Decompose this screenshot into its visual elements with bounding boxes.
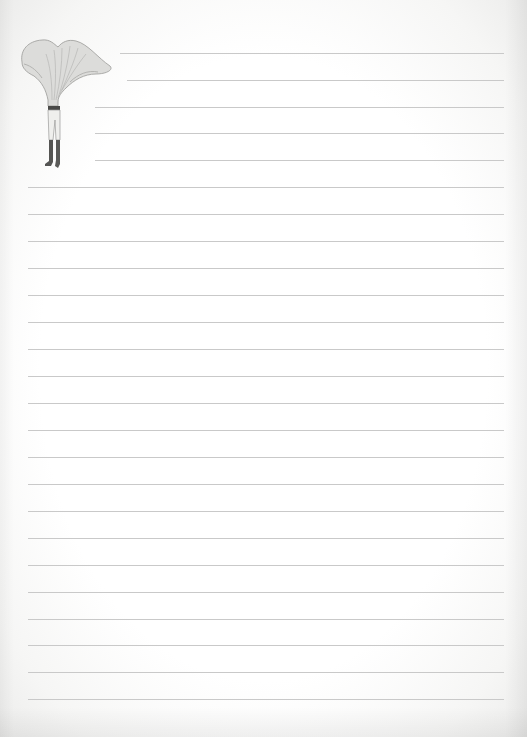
full-rule-line [28,457,504,458]
full-rule-line [28,187,504,188]
short-rule-line [95,160,504,161]
mushroom-figure-illustration [18,36,118,176]
short-rule-line [127,80,504,81]
full-rule-line [28,511,504,512]
short-rule-line [120,53,504,54]
mushroom-figure-icon [18,36,118,176]
full-rule-line [28,322,504,323]
full-rule-line [28,592,504,593]
full-rule-line [28,376,504,377]
stationery-page [0,0,527,737]
short-rule-line [95,107,504,108]
full-rule-line [28,403,504,404]
full-rule-line [28,268,504,269]
full-rule-line [28,645,504,646]
full-rule-line [28,214,504,215]
full-rule-line [28,349,504,350]
paper-edge-left [0,0,14,737]
full-rule-line [28,672,504,673]
short-rule-line [95,133,504,134]
full-rule-line [28,565,504,566]
full-rule-line [28,241,504,242]
full-rule-line [28,538,504,539]
paper-edge-right [505,0,527,737]
full-rule-line [28,699,504,700]
full-rule-line [28,430,504,431]
full-rule-line [28,295,504,296]
full-rule-line [28,484,504,485]
full-rule-line [28,619,504,620]
paper-edge-bottom [0,707,527,737]
